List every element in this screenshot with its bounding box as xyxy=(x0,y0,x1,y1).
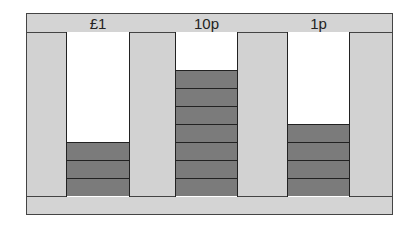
coin-block xyxy=(176,88,237,106)
coin-block xyxy=(288,160,349,178)
coin-block xyxy=(67,142,129,160)
coin-block xyxy=(288,178,349,196)
coin-block xyxy=(288,142,349,160)
coin-block xyxy=(67,160,129,178)
column-1 xyxy=(175,32,238,197)
column-label-10p: 10p xyxy=(175,13,238,33)
base-bar xyxy=(26,196,393,215)
column-2 xyxy=(287,32,350,197)
column-label-pound: £1 xyxy=(66,13,130,33)
coin-block xyxy=(176,124,237,142)
coin-block xyxy=(176,106,237,124)
coin-block xyxy=(176,70,237,88)
coin-block xyxy=(67,178,129,196)
column-label-1p: 1p xyxy=(287,13,350,33)
coin-block xyxy=(288,124,349,142)
column-0 xyxy=(66,32,130,197)
coin-block xyxy=(176,160,237,178)
coin-block xyxy=(176,142,237,160)
coin-block xyxy=(176,178,237,196)
